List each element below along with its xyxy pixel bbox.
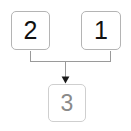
- edge-from-node-1: [66, 51, 111, 62]
- node-3-label: 3: [61, 92, 74, 115]
- arrowhead-icon: [62, 77, 70, 84]
- node-1[interactable]: 1: [81, 11, 121, 50]
- node-2-label: 2: [24, 18, 38, 43]
- node-2[interactable]: 2: [11, 11, 50, 50]
- edge-from-node-2: [31, 51, 66, 62]
- node-3[interactable]: 3: [48, 84, 86, 122]
- diagram-canvas: 2 1 3: [0, 0, 131, 131]
- node-1-label: 1: [94, 18, 108, 43]
